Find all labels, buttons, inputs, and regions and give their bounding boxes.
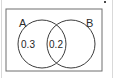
- set-label-a: A: [19, 17, 27, 29]
- a-only-value: 0.3: [21, 39, 35, 50]
- intersection-value: 0.2: [49, 39, 63, 50]
- venn-diagram-figure: A B 0.3 0.2: [0, 0, 115, 78]
- set-label-b: B: [86, 17, 93, 29]
- venn-canvas: A B 0.3 0.2: [0, 0, 115, 78]
